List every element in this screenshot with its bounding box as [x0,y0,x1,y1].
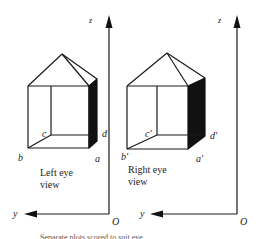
right-y-axis-label: y [140,209,144,219]
right-y-arrowhead-icon [150,211,163,218]
stereo-pair-diagram: z c d b a Left eye view y O z c' d' b' a… [0,0,262,239]
right-house-shape [127,53,205,149]
right-vertex-a-label: a' [196,154,203,164]
left-vertex-d-label: d [102,129,107,139]
right-z-arrowhead-icon [234,15,241,28]
right-origin-label: O [240,217,247,227]
left-z-arrowhead-icon [106,15,113,28]
left-vertex-b-label: b [18,153,23,163]
right-vertex-b-label: b' [121,152,128,162]
left-vertex-a-label: a [95,154,100,164]
left-y-axis-label: y [13,209,17,219]
left-origin-label: O [112,217,119,227]
right-eye-view-label: Right eye view [128,164,167,188]
diagram-drawing [0,0,262,239]
left-eye-view-label: Left eye view [40,167,73,191]
left-z-axis-label: z [89,16,92,26]
left-vertex-c-label: c [42,129,46,139]
right-vertex-d-label: d' [210,131,217,141]
left-y-arrowhead-icon [24,211,37,218]
figure-caption: Separate plots scored to suit eye [40,233,143,239]
left-house-shape [28,54,97,148]
right-vertex-c-label: c' [145,129,152,139]
right-z-axis-label: z [218,16,221,26]
